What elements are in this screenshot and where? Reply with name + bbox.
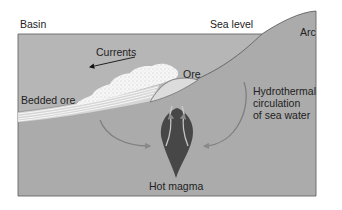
label-currents: Currents: [96, 46, 136, 58]
label-hot-magma: Hot magma: [149, 180, 203, 192]
label-hydrothermal-circulation: Hydrothermal circulation of sea water: [253, 85, 316, 121]
label-sea-level: Sea level: [210, 18, 253, 30]
label-arc: Arc: [300, 26, 316, 38]
label-ore: Ore: [183, 68, 201, 80]
label-basin: Basin: [20, 18, 46, 30]
label-bedded-ore: Bedded ore: [21, 94, 75, 106]
